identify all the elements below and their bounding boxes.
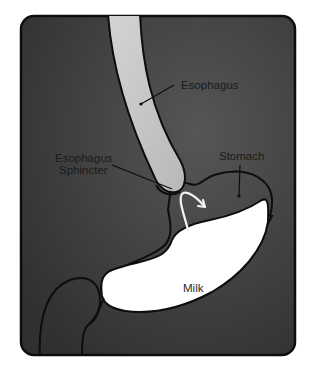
stomach-leader-dot <box>237 194 240 197</box>
stomach-label: Stomach <box>219 150 264 162</box>
sphincter-label-line1: Esophagus <box>55 152 113 164</box>
digestive-diagram: Esophagus Esophagus Sphincter Stomach Mi… <box>0 0 310 370</box>
esophagus-leader-dot <box>139 102 142 105</box>
milk-label: Milk <box>183 282 204 294</box>
esophagus-label: Esophagus <box>181 79 239 91</box>
sphincter-label-line2: Sphincter <box>59 164 108 176</box>
